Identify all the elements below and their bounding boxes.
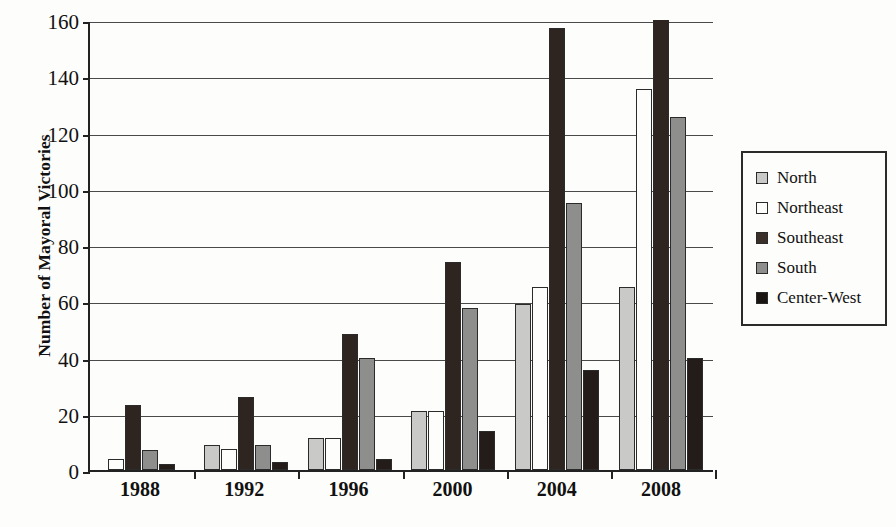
bar-southeast-1992 [238, 397, 254, 470]
bar-chart: Number of Mayoral Victories 020406080100… [0, 0, 896, 527]
x-axis-tick-mark [298, 470, 300, 479]
legend-item-southeast[interactable]: Southeast [743, 223, 885, 253]
centerwest-swatch [756, 292, 768, 304]
bar-north-2000 [411, 411, 427, 470]
bar-centerwest-2004 [583, 370, 599, 470]
bar-group [505, 22, 609, 470]
bar-south-2004 [566, 203, 582, 470]
y-axis-tick-mark [83, 416, 90, 418]
bar-northeast-1996 [325, 438, 341, 470]
legend-label: North [777, 168, 817, 188]
x-axis-tick-mark [507, 470, 509, 479]
legend-item-centerwest[interactable]: Center-West [743, 283, 885, 313]
y-axis-tick-mark [83, 472, 90, 474]
bar-north-2004 [515, 304, 531, 470]
bar-south-1992 [255, 445, 271, 470]
northeast-swatch [756, 202, 768, 214]
southeast-swatch [756, 232, 768, 244]
bar-group [90, 22, 194, 470]
y-axis-tick-mark [83, 78, 90, 80]
bar-centerwest-1988 [159, 464, 175, 470]
bar-north-2008 [619, 287, 635, 470]
x-axis-label-1988: 1988 [120, 478, 160, 501]
x-axis-tick-mark [194, 470, 196, 479]
x-axis-label-2008: 2008 [641, 478, 681, 501]
y-axis-tick-mark [83, 303, 90, 305]
x-axis-label-1992: 1992 [224, 478, 264, 501]
bar-centerwest-2008 [687, 358, 703, 471]
legend-label: Southeast [777, 228, 843, 248]
bar-northeast-1988 [108, 459, 124, 470]
legend-item-north[interactable]: North [743, 163, 885, 193]
bar-northeast-2004 [532, 287, 548, 470]
bar-centerwest-1996 [376, 459, 392, 470]
y-axis-tick-label: 20 [58, 403, 79, 428]
bar-southeast-1996 [342, 334, 358, 470]
bar-northeast-2000 [428, 411, 444, 470]
x-axis-tick-mark [715, 470, 717, 479]
legend-label: Center-West [777, 288, 861, 308]
y-axis-tick-mark [83, 22, 90, 24]
bar-group [298, 22, 402, 470]
bar-centerwest-1992 [272, 462, 288, 470]
south-swatch [756, 262, 768, 274]
bar-southeast-1988 [125, 405, 141, 470]
bar-southeast-2004 [549, 28, 565, 470]
bar-group [401, 22, 505, 470]
bar-centerwest-2000 [479, 431, 495, 470]
y-axis-tick-label: 100 [48, 178, 80, 203]
y-axis-tick-label: 140 [48, 66, 80, 91]
y-axis-tick-mark [83, 360, 90, 362]
bar-south-2008 [670, 117, 686, 470]
bar-north-1992 [204, 445, 220, 470]
legend-label: South [777, 258, 817, 278]
y-axis-tick-label: 40 [58, 347, 79, 372]
bar-northeast-2008 [636, 89, 652, 470]
legend-label: Northeast [777, 198, 843, 218]
x-axis-tick-mark [611, 470, 613, 479]
bar-south-1988 [142, 450, 158, 470]
x-axis-label-2004: 2004 [537, 478, 577, 501]
x-axis-label-2000: 2000 [433, 478, 473, 501]
y-axis-tick-label: 160 [48, 10, 80, 35]
legend: NorthNortheastSoutheastSouthCenter-West [741, 151, 887, 326]
bar-groups [90, 22, 713, 470]
y-axis-tick-mark [83, 247, 90, 249]
bar-group [194, 22, 298, 470]
bar-group [609, 22, 713, 470]
y-axis-tick-mark [83, 135, 90, 137]
bar-southeast-2008 [653, 20, 669, 470]
y-axis-tick-mark [83, 191, 90, 193]
y-axis-tick-label: 120 [48, 122, 80, 147]
y-axis-tick-label: 60 [58, 291, 79, 316]
legend-item-northeast[interactable]: Northeast [743, 193, 885, 223]
bar-southeast-2000 [445, 262, 461, 470]
north-swatch [756, 172, 768, 184]
y-axis-tick-label: 80 [58, 235, 79, 260]
y-axis-tick-label: 0 [69, 460, 80, 485]
bar-south-2000 [462, 308, 478, 470]
x-axis-label-1996: 1996 [328, 478, 368, 501]
bar-north-1996 [308, 438, 324, 470]
legend-item-south[interactable]: South [743, 253, 885, 283]
plot-area: 020406080100120140160 [88, 22, 713, 472]
bar-south-1996 [359, 358, 375, 471]
x-axis-tick-mark [403, 470, 405, 479]
bar-northeast-1992 [221, 449, 237, 470]
